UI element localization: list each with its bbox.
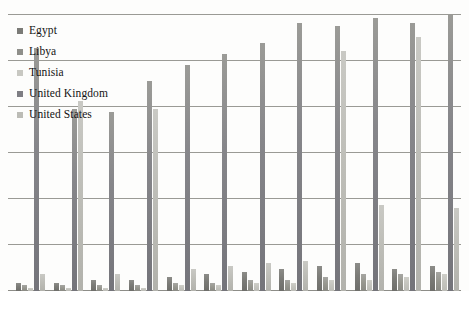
bar-united-states[interactable] (153, 109, 158, 291)
bar-group (279, 14, 308, 291)
bar-tunisia[interactable] (291, 283, 296, 291)
bar-united-states[interactable] (228, 266, 233, 291)
bar-tunisia[interactable] (329, 280, 334, 291)
legend-item-libya[interactable]: Libya (17, 41, 197, 62)
bar-libya[interactable] (436, 272, 441, 291)
bar-tunisia[interactable] (254, 283, 259, 291)
bar-egypt[interactable] (392, 269, 397, 291)
bar-united-states[interactable] (78, 101, 83, 291)
bar-libya[interactable] (323, 277, 328, 291)
bar-united-states[interactable] (40, 274, 45, 291)
bar-egypt[interactable] (91, 280, 96, 291)
bar-united-kingdom[interactable] (410, 23, 415, 291)
bar-egypt[interactable] (204, 274, 209, 291)
bar-united-kingdom[interactable] (448, 15, 453, 291)
legend-swatch-icon (17, 49, 23, 55)
bar-egypt[interactable] (430, 266, 435, 291)
legend-item-egypt[interactable]: Egypt (17, 20, 197, 41)
bar-egypt[interactable] (16, 283, 21, 291)
chart-bottom-margin (0, 291, 469, 314)
bar-libya[interactable] (173, 283, 178, 291)
bar-group (430, 14, 459, 291)
legend-label: United Kingdom (29, 83, 108, 104)
bar-united-states[interactable] (379, 205, 384, 291)
bar-group (204, 14, 233, 291)
legend-swatch-icon (17, 91, 23, 97)
bar-united-kingdom[interactable] (260, 43, 265, 291)
legend-item-tunisia[interactable]: Tunisia (17, 62, 197, 83)
bar-chart: Egypt Libya Tunisia United Kingdom Unite… (0, 0, 469, 314)
bar-united-kingdom[interactable] (297, 23, 302, 291)
bar-tunisia[interactable] (367, 280, 372, 291)
bar-united-states[interactable] (115, 274, 120, 291)
bar-libya[interactable] (248, 280, 253, 291)
legend-item-united-kingdom[interactable]: United Kingdom (17, 83, 197, 104)
bar-united-states[interactable] (416, 37, 421, 291)
bar-libya[interactable] (210, 283, 215, 291)
bar-libya[interactable] (361, 274, 366, 291)
bar-libya[interactable] (285, 280, 290, 291)
bar-egypt[interactable] (355, 263, 360, 291)
bar-group (317, 14, 346, 291)
bar-united-states[interactable] (341, 51, 346, 291)
bar-group (392, 14, 421, 291)
bar-egypt[interactable] (129, 280, 134, 291)
legend-swatch-icon (17, 70, 23, 76)
bar-united-kingdom[interactable] (109, 112, 114, 291)
bar-united-states[interactable] (303, 261, 308, 291)
bar-united-states[interactable] (454, 208, 459, 291)
legend-swatch-icon (17, 28, 23, 34)
bar-tunisia[interactable] (404, 277, 409, 291)
legend-swatch-icon (17, 112, 23, 118)
bar-united-kingdom[interactable] (373, 18, 378, 291)
legend-label: Libya (29, 41, 56, 62)
bar-united-states[interactable] (266, 263, 271, 291)
bar-egypt[interactable] (279, 269, 284, 291)
bar-united-kingdom[interactable] (335, 26, 340, 291)
bar-united-states[interactable] (191, 269, 196, 291)
legend-label: United States (29, 104, 92, 125)
bar-group (242, 14, 271, 291)
legend-label: Tunisia (29, 62, 64, 83)
bar-egypt[interactable] (167, 277, 172, 291)
bar-united-kingdom[interactable] (72, 109, 77, 291)
bar-tunisia[interactable] (442, 274, 447, 291)
legend-label: Egypt (29, 20, 57, 41)
chart-legend: Egypt Libya Tunisia United Kingdom Unite… (17, 20, 197, 125)
bar-egypt[interactable] (317, 266, 322, 291)
bar-united-kingdom[interactable] (222, 54, 227, 291)
bar-libya[interactable] (398, 274, 403, 291)
bar-egypt[interactable] (54, 283, 59, 291)
bar-group (355, 14, 384, 291)
bar-egypt[interactable] (242, 272, 247, 291)
legend-item-united-states[interactable]: United States (17, 104, 197, 125)
